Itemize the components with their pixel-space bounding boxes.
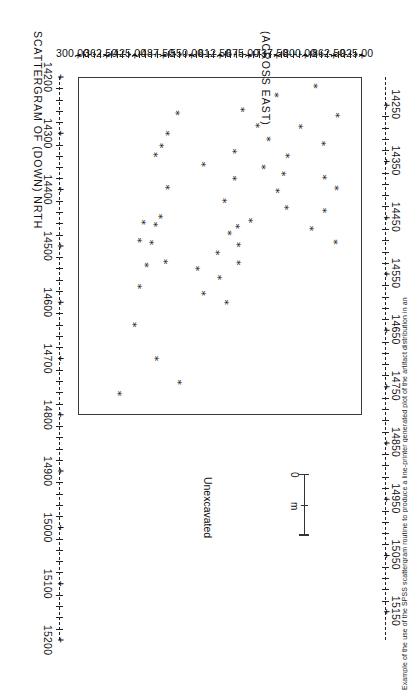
east-axis-minor-tick — [57, 460, 64, 461]
data-point: * — [128, 320, 137, 329]
north-axis-major-tick: + — [302, 50, 308, 60]
data-point: * — [150, 354, 159, 363]
east-axis-minor-tick — [57, 178, 64, 179]
data-point: * — [281, 151, 290, 160]
north-axis-tick-label: 862.50 — [312, 47, 345, 59]
north-axis-minor-tick — [310, 52, 311, 59]
north-axis-minor-tick — [264, 52, 265, 59]
east-axis-minor-tick — [57, 100, 64, 101]
north-axis-minor-tick — [122, 52, 123, 59]
excavated-area-frame — [78, 77, 362, 415]
data-point: * — [220, 298, 229, 307]
east-axis-minor-tick — [57, 156, 64, 157]
east-axis-offset-minor-tick — [383, 229, 390, 230]
east-axis-minor-tick — [57, 449, 64, 450]
data-point: * — [236, 105, 245, 114]
east-axis-offset-minor-tick — [383, 342, 390, 343]
scattergram-paper: ****************************************… — [0, 0, 408, 694]
page-title: SCATTERGRAM OF (DOWN) NRTH — [32, 31, 44, 229]
north-axis-minor-tick — [100, 52, 101, 59]
east-axis-offset-minor-tick — [383, 184, 390, 185]
east-axis-minor-tick — [57, 257, 64, 258]
east-axis-tick-label: 14500 — [42, 231, 54, 261]
east-axis-offset-minor-tick — [383, 353, 390, 354]
north-axis-minor-tick — [196, 52, 197, 59]
north-axis-minor-tick — [94, 52, 95, 59]
scale-bar-end-left — [299, 474, 309, 476]
east-axis-major-tick: + — [55, 130, 65, 136]
data-point: * — [228, 147, 237, 156]
east-axis-offset-tick-label: 14250 — [390, 89, 402, 119]
north-axis-minor-tick — [281, 52, 282, 59]
east-axis-major-tick: + — [55, 356, 65, 362]
north-axis-major-tick: + — [160, 50, 166, 60]
east-axis-minor-tick — [57, 629, 64, 630]
data-point: * — [149, 150, 158, 159]
east-axis-tick-label: 15100 — [42, 569, 54, 599]
data-point: * — [218, 196, 227, 205]
east-axis-tick-label: 14600 — [42, 287, 54, 317]
data-point: * — [232, 258, 241, 267]
data-point: * — [161, 129, 170, 138]
east-axis-offset-minor-tick — [383, 511, 390, 512]
north-axis-minor-tick — [355, 52, 356, 59]
north-axis-minor-tick — [270, 52, 271, 59]
north-axis-minor-tick — [83, 52, 84, 59]
north-axis-minor-tick — [316, 52, 317, 59]
north-axis-minor-tick — [321, 52, 322, 59]
east-axis-offset-minor-tick — [383, 533, 390, 534]
data-point: * — [331, 111, 340, 120]
north-axis-minor-tick — [151, 52, 152, 59]
north-axis-minor-tick — [242, 52, 243, 59]
north-axis-major-tick: + — [331, 50, 337, 60]
north-axis-major-tick: + — [103, 50, 109, 60]
north-axis-minor-tick — [174, 52, 175, 59]
data-point: * — [171, 109, 180, 118]
north-axis-minor-tick — [168, 52, 169, 59]
data-point: * — [232, 240, 241, 249]
data-point: * — [257, 163, 266, 172]
east-axis-offset-minor-tick — [383, 128, 390, 129]
east-axis-minor-tick — [57, 325, 64, 326]
north-axis-minor-tick — [350, 52, 351, 59]
east-axis-offset-minor-tick — [383, 252, 390, 253]
data-point: * — [329, 237, 338, 246]
north-axis-minor-tick — [128, 52, 129, 59]
east-axis-minor-tick — [57, 88, 64, 89]
east-axis-minor-tick — [57, 426, 64, 427]
data-point: * — [161, 183, 170, 192]
east-axis-minor-tick — [57, 561, 64, 562]
north-axis-major-tick: + — [359, 50, 365, 60]
data-point: * — [133, 236, 142, 245]
data-point: * — [305, 224, 314, 233]
east-axis-offset-minor-tick — [383, 465, 390, 466]
east-axis-minor-tick — [57, 617, 64, 618]
east-axis-minor-tick — [57, 291, 64, 292]
east-axis-offset-minor-tick — [383, 297, 390, 298]
east-axis-offset-minor-tick — [383, 308, 390, 309]
data-point: * — [244, 216, 253, 225]
east-axis-offset-minor-tick — [383, 567, 390, 568]
east-axis-minor-tick — [57, 404, 64, 405]
east-axis-offset-minor-tick — [383, 409, 390, 410]
east-axis-offset-minor-tick — [383, 432, 390, 433]
north-axis-minor-tick — [179, 52, 180, 59]
north-axis-minor-tick — [293, 52, 294, 59]
north-axis-minor-tick — [344, 52, 345, 59]
east-axis-offset-minor-tick — [383, 488, 390, 489]
north-axis-minor-tick — [287, 52, 288, 59]
north-axis-minor-tick — [185, 52, 186, 59]
unexcavated-label: Unexcavated — [202, 477, 214, 538]
north-axis-tick-label: 362.50 — [84, 47, 117, 59]
data-point: * — [155, 141, 164, 150]
north-axis-minor-tick — [230, 52, 231, 59]
east-axis-tick-label: 15000 — [42, 512, 54, 542]
east-axis-minor-tick — [57, 516, 64, 517]
north-axis-minor-tick — [213, 52, 214, 59]
data-point: * — [280, 203, 289, 212]
east-axis-offset-minor-tick — [383, 173, 390, 174]
north-axis-minor-tick — [139, 52, 140, 59]
east-axis-tick-label: 14700 — [42, 344, 54, 374]
east-axis-offset-minor-tick — [383, 578, 390, 579]
north-axis-major-tick: + — [245, 50, 251, 60]
